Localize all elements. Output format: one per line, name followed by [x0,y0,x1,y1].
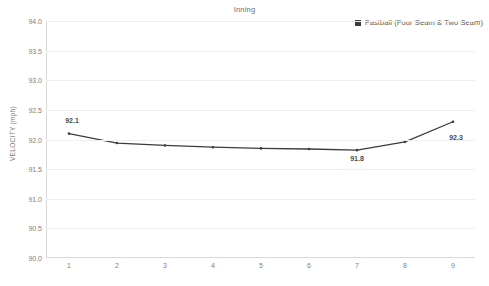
chart-title: Inning [0,5,489,14]
y-axis-tick-label: 92.5 [2,106,42,113]
gridline [46,80,475,81]
x-axis-tick-labels: 123456789 [46,262,475,274]
x-axis-tick-label: 3 [150,262,180,269]
y-axis-tick-label: 90.5 [2,225,42,232]
x-axis-tick-label: 2 [102,262,132,269]
x-axis-tick-label: 1 [54,262,84,269]
y-axis-tick-label: 94.0 [2,18,42,25]
y-axis-tick-label: 91.5 [2,166,42,173]
plot-area [46,21,475,258]
x-axis-tick-label: 4 [198,262,228,269]
gridline [46,21,475,22]
gridline [46,140,475,141]
y-axis-tick-labels: 94.093.593.092.592.091.591.090.590.0 [0,0,42,286]
gridline [46,110,475,111]
y-axis-tick-label: 90.0 [2,255,42,262]
x-axis-tick-label: 9 [438,262,468,269]
gridline [46,51,475,52]
data-point-label: 92.1 [65,117,79,124]
gridline [46,199,475,200]
velocity-by-inning-chart: Inning Fastball (Four Seam & Two Seam) V… [0,0,489,286]
data-point-label: 91.8 [350,155,364,162]
gridline [46,169,475,170]
y-axis-tick-label: 92.0 [2,136,42,143]
x-axis-tick-label: 6 [294,262,324,269]
x-axis-tick-label: 5 [246,262,276,269]
x-axis-tick-label: 8 [390,262,420,269]
x-axis-tick-label: 7 [342,262,372,269]
y-axis-tick-label: 93.0 [2,77,42,84]
y-axis-tick-label: 93.5 [2,47,42,54]
data-point-label: 92.3 [449,134,463,141]
gridline [46,228,475,229]
y-axis-tick-label: 91.0 [2,195,42,202]
